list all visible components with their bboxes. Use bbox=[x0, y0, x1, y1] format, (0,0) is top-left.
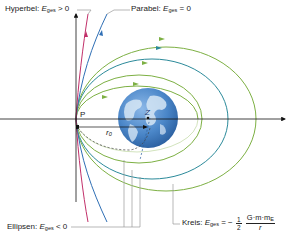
point-p-label: P bbox=[80, 110, 85, 120]
point-z-label: Z bbox=[145, 108, 150, 118]
hyperbola-label: Hyperbel: Eges > 0 bbox=[5, 4, 69, 15]
ellipses-label: Ellipsen: Eges < 0 bbox=[7, 222, 67, 233]
circle-label: Kreis: Eges = − 12 G·m·mEr bbox=[182, 214, 276, 232]
parabola-label: Parabel: Eges = 0 bbox=[131, 4, 191, 15]
radius-label: r0 bbox=[106, 128, 112, 139]
orbit-diagram bbox=[0, 0, 289, 240]
